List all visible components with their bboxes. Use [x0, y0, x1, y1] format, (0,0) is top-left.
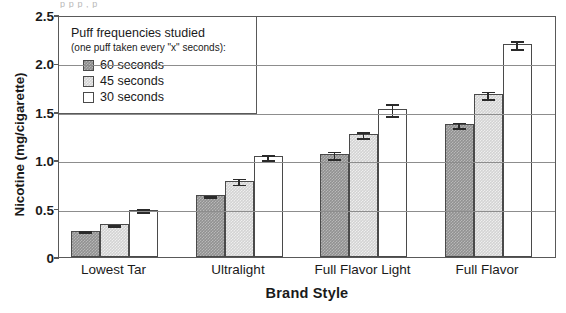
bar-ultralight-30-seconds	[254, 156, 283, 257]
x-axis-title: Brand Style	[58, 285, 556, 301]
error-bar-cap-bottom	[453, 128, 466, 130]
y-tick-label-1.5: 1.5	[35, 105, 54, 120]
y-tick-label-0: 0	[46, 251, 54, 266]
error-bar-cap-bottom	[233, 185, 246, 187]
error-bar-cap-bottom	[204, 197, 217, 199]
gridline-2	[59, 65, 555, 66]
legend-item-label: 30 seconds	[100, 91, 164, 104]
bar-ultralight-45-seconds	[225, 181, 254, 257]
error-bar-cap-bottom	[357, 138, 370, 140]
legend-swatch-icon	[83, 92, 94, 103]
plot-area: Puff frequencies studied (one puff taken…	[58, 16, 556, 258]
error-bar-cap-top	[357, 132, 370, 134]
bar-full-flavor-60-seconds	[445, 124, 474, 257]
y-tick-label-2.5: 2.5	[35, 9, 54, 24]
error-bar-cap-bottom	[511, 49, 524, 51]
x-tick-label-ultralight: Ultralight	[211, 262, 264, 277]
bar-ultralight-60-seconds	[196, 195, 225, 257]
y-tick-label-0.5: 0.5	[35, 202, 54, 217]
x-tick-label-full-flavor-light: Full Flavor Light	[314, 262, 410, 277]
gridline-0.5	[59, 211, 555, 212]
bar-full-flavor-light-60-seconds	[320, 154, 349, 257]
legend-subtitle: (one puff taken every "x" seconds):	[71, 41, 256, 54]
legend-items: 60 seconds45 seconds30 seconds	[71, 57, 256, 105]
x-tick-label-lowest-tar: Lowest Tar	[81, 262, 146, 277]
y-axis-ticks: 2.52.01.51.00.50	[0, 16, 54, 258]
legend-swatch-icon	[83, 76, 94, 87]
x-tick-label-full-flavor: Full Flavor	[455, 262, 518, 277]
error-bar-cap-top	[453, 123, 466, 125]
error-bar-cap-bottom	[108, 226, 121, 228]
error-bar-cap-top	[262, 155, 275, 157]
error-bar-cap-bottom	[79, 233, 92, 235]
bar-full-flavor-light-30-seconds	[378, 109, 407, 257]
legend-item: 30 seconds	[83, 89, 256, 105]
bar-lowest-tar-45-seconds	[100, 224, 129, 257]
nicotine-bar-chart: p p p , p 2.52.01.51.00.50 Nicotine (mg/…	[0, 0, 566, 313]
y-tick-label-1.0: 1.0	[35, 154, 54, 169]
error-bar-cap-top	[233, 179, 246, 181]
bar-full-flavor-light-45-seconds	[349, 134, 378, 257]
legend-title: Puff frequencies studied	[71, 26, 256, 40]
legend-item-label: 45 seconds	[100, 75, 164, 88]
legend-item: 45 seconds	[83, 73, 256, 89]
y-axis-title: Nicotine (mg/cigarette)	[12, 30, 27, 260]
cropped-caption-remnant: p p p , p	[60, 0, 530, 8]
gridline-1	[59, 162, 555, 163]
bar-full-flavor-30-seconds	[503, 44, 532, 257]
bar-lowest-tar-60-seconds	[71, 231, 100, 257]
error-bar-cap-top	[511, 41, 524, 43]
error-bar-cap-top	[386, 104, 399, 106]
gridline-1.5	[59, 114, 555, 115]
error-bar-cap-bottom	[482, 99, 495, 101]
error-bar-cap-top	[328, 152, 341, 154]
bar-full-flavor-45-seconds	[474, 94, 503, 257]
x-axis-tick-labels: Lowest TarUltralightFull Flavor LightFul…	[58, 262, 556, 282]
error-bar-cap-bottom	[137, 212, 150, 214]
error-bar-cap-bottom	[328, 159, 341, 161]
bar-lowest-tar-30-seconds	[129, 210, 158, 257]
error-bar-cap-bottom	[386, 116, 399, 118]
y-tick-label-2.0: 2.0	[35, 57, 54, 72]
error-bar-cap-top	[482, 92, 495, 94]
